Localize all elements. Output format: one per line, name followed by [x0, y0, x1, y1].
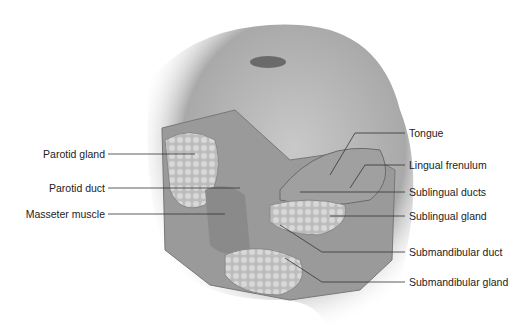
- label-lingual-frenulum: Lingual frenulum: [409, 159, 487, 171]
- label-submandibular-duct: Submandibular duct: [409, 246, 502, 258]
- label-submandibular-gland: Submandibular gland: [409, 276, 508, 288]
- label-parotid-duct: Parotid duct: [0, 182, 105, 194]
- label-sublingual-gland: Sublingual gland: [409, 210, 487, 222]
- masseter-shape: [205, 186, 250, 254]
- label-sublingual-ducts: Sublingual ducts: [409, 186, 486, 198]
- label-parotid-gland: Parotid gland: [0, 148, 105, 160]
- label-masseter-muscle: Masseter muscle: [0, 208, 105, 220]
- label-tongue: Tongue: [409, 127, 443, 139]
- eye: [250, 56, 286, 68]
